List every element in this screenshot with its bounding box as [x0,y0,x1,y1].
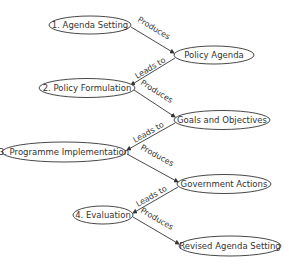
node-label: 3. Programme Implementation [0,147,129,157]
edge-label: Produces [139,143,175,168]
node-label: Revised Agenda Setting [179,241,280,251]
node-agenda-setting: 1. Agenda Setting [49,16,131,34]
node-label: Policy Agenda [184,50,244,60]
edge-policy-agenda-to-formulation: Leads to [131,55,175,85]
edge-label: Produces [139,78,175,105]
edge-implementation-to-government-actions: Produces [127,143,178,182]
node-goals-and-objectives: Goals and Objectives [174,111,270,130]
node-label: 2. Policy Formulation [43,83,132,93]
edge-label: Leads to [132,120,166,145]
node-revised-agenda-setting: Revised Agenda Setting [179,236,281,256]
node-label: Government Actions [181,179,268,189]
edge-label: Produces [136,15,172,41]
node-programme-implementation: 3. Programme Implementation [0,142,129,162]
edge-formulation-to-goals: Produces [134,78,175,117]
edge-agenda-to-policy-agenda: Produces [131,15,174,53]
node-policy-formulation: 2. Policy Formulation [39,79,135,98]
edge-goals-to-implementation: Leads to [127,120,175,150]
node-label: 1. Agenda Setting [52,20,128,30]
policy-cycle-diagram: Produces Leads to Produces Leads to Prod… [0,0,289,270]
node-evaluation: 4. Evaluation [73,206,133,224]
edge-government-actions-to-evaluation: Leads to [133,184,178,213]
edge-label: Leads to [133,55,167,80]
edge-label: Produces [139,206,175,232]
edge-label: Leads to [135,184,169,209]
node-label: 4. Evaluation [75,210,131,220]
node-policy-agenda: Policy Agenda [174,46,254,64]
edge-evaluation-to-revised-agenda: Produces [133,206,179,244]
node-government-actions: Government Actions [177,175,271,194]
node-label: Goals and Objectives [177,115,267,125]
